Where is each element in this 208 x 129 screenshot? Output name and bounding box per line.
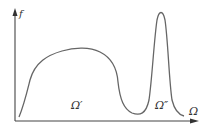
region-label-omega-double-prime: Ω″: [155, 100, 168, 111]
region-label-omega-prime: Ω′: [71, 100, 83, 111]
x-axis-label: Ω: [189, 106, 198, 117]
diagram-canvas: [0, 0, 208, 129]
y-axis-label: f: [19, 9, 23, 19]
y-axis-arrow-icon: [13, 8, 18, 16]
x-axis-arrow-icon: [190, 119, 199, 124]
